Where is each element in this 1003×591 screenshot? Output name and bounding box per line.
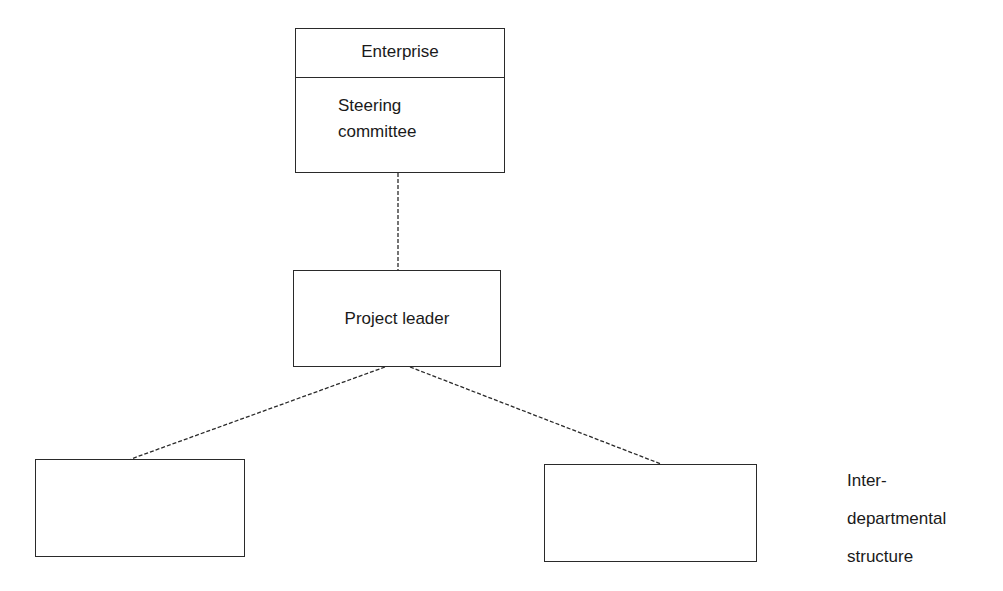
enterprise-box: Enterprise Steering committee [295,28,505,173]
enterprise-header: Enterprise [296,40,504,64]
side-label-line3: structure [847,538,946,576]
connector-leader-to-left [131,367,385,459]
right-unit-box [544,464,757,562]
steering-committee-label: Steering committee [338,93,416,145]
steering-line: Steering [338,93,416,119]
side-label-line2: departmental [847,500,946,538]
connector-leader-to-right [410,367,661,464]
project-leader-box: Project leader [293,270,501,367]
interdepartmental-structure-label: Inter- departmental structure [847,462,946,576]
committee-line: committee [338,119,416,145]
enterprise-divider [296,77,504,78]
side-label-line1: Inter- [847,462,946,500]
project-leader-label: Project leader [294,307,500,331]
left-unit-box [35,459,245,557]
